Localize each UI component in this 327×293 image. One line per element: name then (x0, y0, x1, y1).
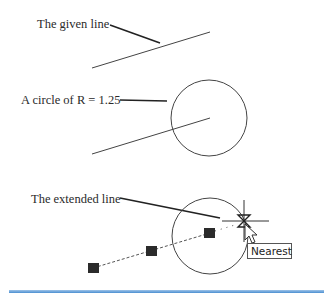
osnap-tooltip: Nearest (247, 243, 292, 259)
grip-mid[interactable] (146, 246, 157, 256)
grip-end[interactable] (204, 228, 215, 238)
mouse-pointer-icon (245, 224, 257, 243)
grip-start[interactable] (88, 263, 99, 273)
leader-given-line (110, 25, 160, 43)
given-line (92, 32, 210, 68)
line-in-circle (92, 118, 210, 154)
leader-extended-line (120, 198, 220, 218)
leader-circle (120, 100, 167, 101)
extension-preview (215, 224, 238, 231)
figure-given-line (92, 25, 210, 68)
figure-extended-line (88, 198, 269, 274)
figure-circle (92, 80, 247, 156)
